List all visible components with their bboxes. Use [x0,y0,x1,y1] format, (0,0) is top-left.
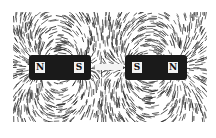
pole-label-n-left: N [35,62,45,73]
pole-label-s-right: S [132,62,142,73]
pole-label-s-left: S [74,62,84,73]
gap-between-magnets [95,64,123,70]
pole-label-n-right: N [168,62,178,73]
